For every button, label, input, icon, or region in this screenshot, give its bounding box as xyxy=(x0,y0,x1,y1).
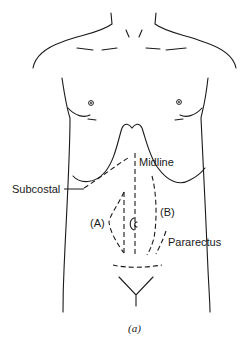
neck xyxy=(33,13,236,68)
pubic-line xyxy=(113,265,162,267)
torso-left-side xyxy=(62,78,70,312)
abdominal-incisions-diagram: Midline Subcostal (A) (B) Pararectus (a) xyxy=(0,0,245,345)
left-pectoral xyxy=(68,108,90,116)
groin xyxy=(119,277,153,306)
label-subcostal: Subcostal xyxy=(12,183,60,195)
torso-right-side xyxy=(201,78,210,312)
right-pectoral xyxy=(180,108,202,116)
figure-caption: (a) xyxy=(128,322,141,335)
label-pararectus: Pararectus xyxy=(168,236,222,248)
costal-margin xyxy=(73,124,205,182)
umbilicus xyxy=(130,218,134,230)
nipple-right-icon xyxy=(177,100,182,105)
pararectus-incision xyxy=(156,231,166,254)
incision-a xyxy=(109,192,124,253)
incision-b xyxy=(147,176,156,255)
clavicles xyxy=(77,48,186,50)
nipple-left-icon xyxy=(89,101,94,106)
label-midline: Midline xyxy=(139,156,174,168)
label-a: (A) xyxy=(90,217,105,229)
label-b: (B) xyxy=(160,206,175,218)
subcostal-incision xyxy=(84,158,128,188)
